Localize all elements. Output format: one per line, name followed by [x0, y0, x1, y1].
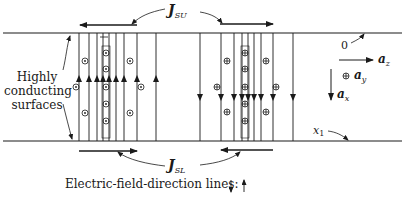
ax-label: ax	[337, 87, 349, 101]
label-line-2: conducting	[4, 84, 70, 98]
ay-label: ay	[354, 68, 366, 82]
up-arrowheads	[76, 75, 159, 82]
az-main: a	[378, 52, 386, 66]
highly-conducting-label: Highly conducting surfaces	[4, 70, 70, 112]
x1-label: x1	[313, 124, 324, 137]
x1-sub: 1	[319, 129, 324, 138]
az-label: az	[378, 52, 390, 66]
h-field-out-dot-centers	[75, 52, 142, 122]
jsl-label: JSL	[168, 157, 185, 173]
ax-sub: x	[345, 94, 350, 103]
ax-main: a	[337, 87, 345, 101]
jsl-main: J	[168, 157, 175, 173]
az-sub: z	[386, 59, 390, 68]
down-arrowheads	[197, 94, 296, 101]
label-line-1: Highly	[4, 70, 70, 84]
ay-sub: y	[362, 75, 367, 84]
ay-main: a	[354, 68, 362, 82]
label-line-3: surfaces	[4, 98, 70, 112]
ay-into-page-icon	[343, 73, 349, 79]
jsu-main: J	[168, 2, 175, 18]
jsu-label: JSU	[168, 2, 187, 18]
h-field-in-crosses	[214, 50, 279, 124]
legend-label: Electric-field-direction lines:	[65, 177, 238, 191]
jsl-sub: SL	[175, 166, 186, 175]
h-field-out-dots	[73, 50, 144, 124]
jsu-sub: SU	[175, 11, 187, 20]
upward-field-lines	[79, 33, 156, 141]
origin-label: 0	[341, 39, 348, 52]
